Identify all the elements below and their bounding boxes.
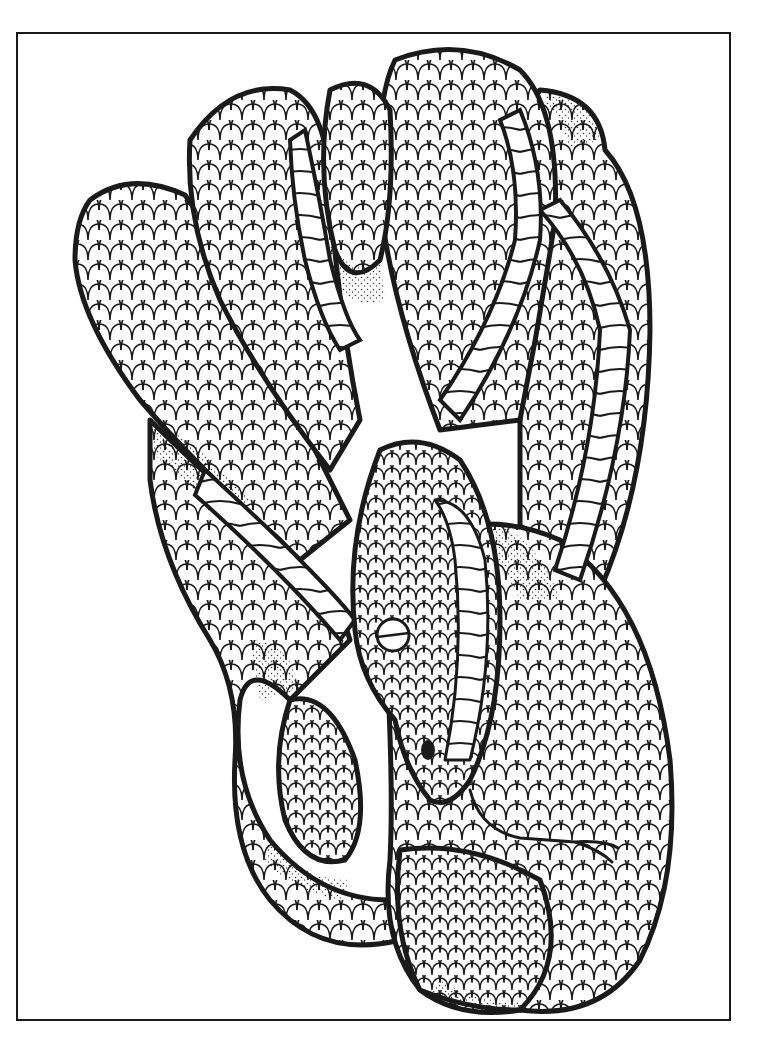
coloring-page-canvas — [0, 0, 765, 1064]
snake-head — [353, 442, 500, 803]
nostril — [421, 740, 435, 760]
snake-eye — [377, 619, 409, 651]
